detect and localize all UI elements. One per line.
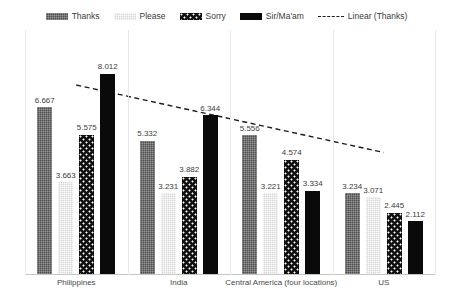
legend-item-label: Sorry (206, 12, 226, 21)
bar-group: 5.3323.2313.8826.344India (128, 29, 231, 274)
bar-rect[interactable] (366, 197, 381, 274)
bar-value-label: 3.221 (261, 183, 281, 191)
bar-group: 6.6673.6635.5758.012Philippines (25, 29, 128, 274)
bar-item[interactable]: 6.667 (37, 29, 52, 274)
legend-item-label: Linear (Thanks) (348, 12, 408, 21)
chart-container: ThanksPleaseSorrySir/Ma'amLinear (Thanks… (0, 0, 453, 306)
legend-item-sorry[interactable]: Sorry (180, 12, 226, 21)
bar-rect[interactable] (100, 74, 115, 274)
bar-value-label: 5.556 (240, 125, 260, 133)
bar-value-label: 5.332 (137, 130, 157, 138)
bar-item[interactable]: 5.332 (140, 29, 155, 274)
bar-item[interactable]: 3.882 (182, 29, 197, 274)
bar-rect[interactable] (58, 182, 73, 274)
bar-rect[interactable] (203, 115, 218, 274)
bar-value-label: 3.882 (179, 166, 199, 174)
bar-value-label: 8.012 (98, 63, 118, 71)
bar-group-bars: 6.6673.6635.5758.012 (25, 29, 128, 274)
category-axis-label: US (378, 278, 389, 287)
bar-group-bars: 3.2343.0712.4452.112 (333, 29, 436, 274)
bar-item[interactable]: 6.344 (203, 29, 218, 274)
category-axis-label: Philippines (57, 278, 96, 287)
bar-item[interactable]: 5.575 (79, 29, 94, 274)
legend-swatch-icon (180, 13, 202, 20)
bar-rect[interactable] (140, 141, 155, 274)
legend-item-thanks[interactable]: Thanks (46, 12, 100, 21)
bar-item[interactable]: 3.234 (345, 29, 360, 274)
bar-item[interactable]: 3.221 (263, 29, 278, 274)
bar-value-label: 4.574 (282, 149, 302, 157)
bar-rect[interactable] (305, 191, 320, 274)
chart-legend: ThanksPleaseSorrySir/Ma'amLinear (Thanks… (0, 6, 453, 26)
bar-rect[interactable] (182, 177, 197, 274)
bar-item[interactable]: 8.012 (100, 29, 115, 274)
bar-rect[interactable] (408, 221, 423, 274)
bar-rect[interactable] (284, 160, 299, 274)
legend-item-label: Thanks (72, 12, 100, 21)
bar-rect[interactable] (37, 107, 52, 274)
legend-swatch-icon (114, 13, 136, 20)
legend-item-label: Sir/Ma'am (266, 12, 304, 21)
bar-group: 3.2343.0712.4452.112US (333, 29, 436, 274)
bar-item[interactable]: 4.574 (284, 29, 299, 274)
bar-group-bars: 5.5563.2214.5743.334 (230, 29, 333, 274)
bar-item[interactable]: 3.231 (161, 29, 176, 274)
bar-value-label: 3.663 (56, 172, 76, 180)
category-axis-label: Central America (four locations) (225, 278, 337, 287)
bar-value-label: 3.071 (363, 187, 383, 195)
legend-item-label: Please (140, 12, 166, 21)
bar-item[interactable]: 5.556 (242, 29, 257, 274)
bar-item[interactable]: 3.663 (58, 29, 73, 274)
bar-value-label: 3.231 (158, 183, 178, 191)
bar-item[interactable]: 3.071 (366, 29, 381, 274)
bar-group-bars: 5.3323.2313.8826.344 (128, 29, 231, 274)
legend-item-please[interactable]: Please (114, 12, 166, 21)
bar-value-label: 3.234 (342, 183, 362, 191)
legend-item-sir-ma-am[interactable]: Sir/Ma'am (240, 12, 304, 21)
bar-value-label: 3.334 (303, 180, 323, 188)
bar-item[interactable]: 2.112 (408, 29, 423, 274)
bar-rect[interactable] (242, 135, 257, 274)
bar-value-label: 6.667 (35, 97, 55, 105)
bar-rect[interactable] (387, 213, 402, 274)
plot-area: 6.6673.6635.5758.012Philippines5.3323.23… (25, 30, 435, 275)
bar-value-label: 2.445 (384, 202, 404, 210)
bar-rect[interactable] (161, 193, 176, 274)
bar-rect[interactable] (263, 193, 278, 274)
legend-trendline-swatch (318, 16, 344, 17)
bar-value-label: 6.344 (200, 105, 220, 113)
bar-group: 5.5563.2214.5743.334Central America (fou… (230, 29, 333, 274)
category-separator-line (435, 30, 436, 275)
bar-rect[interactable] (79, 135, 94, 274)
bar-item[interactable]: 3.334 (305, 29, 320, 274)
category-axis-label: India (170, 278, 187, 287)
bar-item[interactable]: 2.445 (387, 29, 402, 274)
legend-item-linear-thanks[interactable]: Linear (Thanks) (318, 12, 408, 21)
legend-swatch-icon (46, 13, 68, 20)
bar-value-label: 5.575 (77, 124, 97, 132)
bar-rect[interactable] (345, 193, 360, 274)
legend-swatch-icon (240, 13, 262, 20)
bar-value-label: 2.112 (406, 211, 425, 219)
